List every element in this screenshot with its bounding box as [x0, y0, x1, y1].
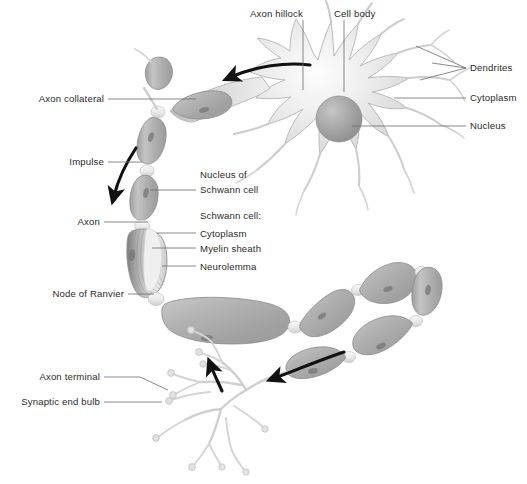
label-axon-collateral: Axon collateral	[39, 93, 104, 104]
synaptic-end-bulbs	[153, 327, 269, 476]
node-of-ranvier-upper	[151, 106, 165, 118]
label-neurolemma: Neurolemma	[200, 261, 257, 272]
label-synaptic-end-bulb: Synaptic end bulb	[21, 396, 100, 407]
node-of-ranvier-main	[148, 293, 164, 306]
label-schwann-nucleus-line2: Schwann cell	[200, 184, 258, 195]
label-cytoplasm-soma: Cytoplasm	[470, 92, 517, 103]
label-axon-hillock: Axon hillock	[250, 8, 303, 19]
label-dendrites: Dendrites	[470, 62, 512, 73]
label-axon: Axon	[78, 216, 100, 227]
label-cell-body: Cell body	[334, 8, 375, 19]
label-impulse: Impulse	[69, 156, 104, 167]
neuron-illustration: Axon hillock Cell body Dendrites Cytopla…	[0, 0, 527, 484]
leader-axon-terminal	[104, 377, 168, 390]
label-node-of-ranvier: Node of Ranvier	[52, 288, 124, 299]
label-nucleus: Nucleus	[470, 120, 506, 131]
axon-terminal-arbor	[153, 327, 287, 476]
axon-collateral-branch	[135, 49, 172, 109]
label-schwann-cytoplasm: Cytoplasm	[200, 228, 247, 239]
axon-myelinated-upper	[130, 49, 234, 232]
neuron-diagram: Axon hillock Cell body Dendrites Cytopla…	[0, 0, 527, 484]
label-schwann-cell-heading: Schwann cell:	[200, 210, 261, 221]
label-schwann-nucleus-line1: Nucleus of	[200, 169, 247, 180]
impulse-arrow-terminal	[211, 366, 222, 391]
label-axon-terminal: Axon terminal	[39, 371, 100, 382]
nucleus-sphere	[316, 96, 362, 142]
label-myelin-sheath: Myelin sheath	[200, 243, 261, 254]
